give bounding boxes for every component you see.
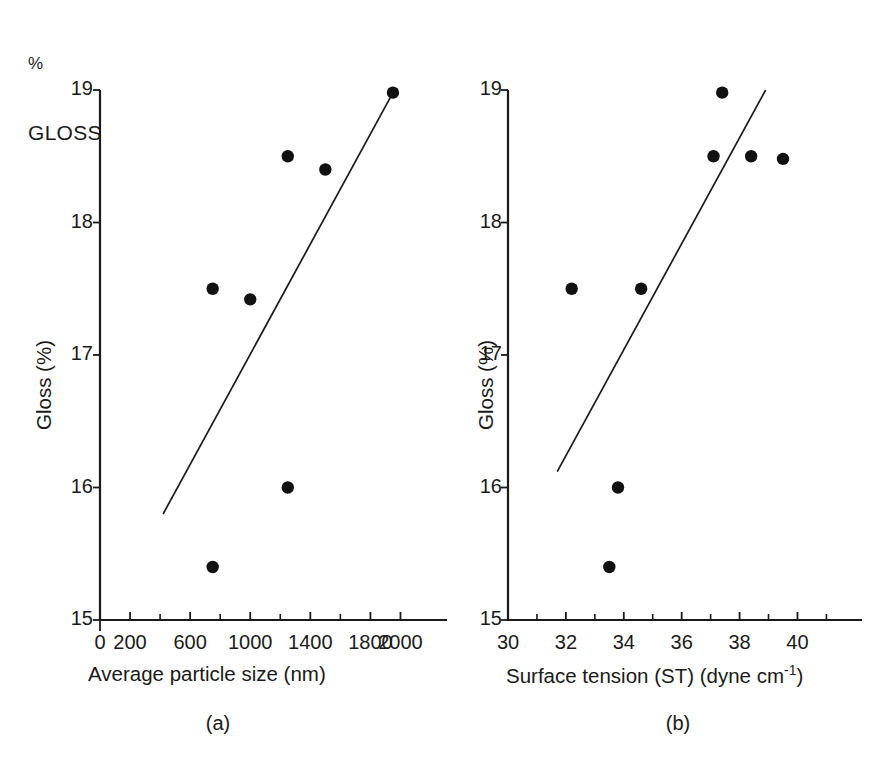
x-tick-label: 1400 [280, 631, 340, 654]
panel-a-caption: (a) [178, 712, 258, 735]
data-point [716, 86, 728, 98]
y-tick-label: 17 [458, 342, 502, 365]
panel-b-plot [442, 0, 892, 700]
x-tick-label: 1000 [220, 631, 280, 654]
y-tick-label: 15 [458, 607, 502, 630]
y-tick-label: 16 [458, 475, 502, 498]
y-tick-label: 16 [49, 475, 93, 498]
data-point [707, 150, 719, 162]
panel-b-x-axis-title-tail: ) [796, 664, 803, 687]
data-point [206, 561, 218, 573]
panel-b-x-axis-exponent: -1 [784, 662, 796, 678]
data-point [612, 481, 624, 493]
y-tick-label: 18 [458, 210, 502, 233]
x-tick-label: 32 [536, 631, 596, 654]
data-point [745, 150, 757, 162]
x-tick-label: 600 [160, 631, 220, 654]
x-tick-label: 2000 [370, 631, 430, 654]
x-tick-label: 36 [652, 631, 712, 654]
panel-b-caption: (b) [638, 712, 718, 735]
x-tick-label: 40 [767, 631, 827, 654]
data-point [206, 283, 218, 295]
panel-b: Gloss (%) Surface tension (ST) (dyne cm-… [442, 0, 892, 763]
y-tick-label: 19 [49, 77, 93, 100]
x-tick-label: 200 [100, 631, 160, 654]
panel-a: Gloss (%) Average particle size (nm) (a)… [0, 0, 450, 763]
y-tick-label: 18 [49, 210, 93, 233]
y-tick-label: 15 [49, 607, 93, 630]
panel-b-x-axis-title-main: Surface tension (ST) (dyne cm [506, 664, 784, 687]
x-tick-label: 34 [594, 631, 654, 654]
y-tick-label: 19 [458, 77, 502, 100]
data-point [635, 283, 647, 295]
data-point [565, 283, 577, 295]
data-point [282, 481, 294, 493]
panel-b-x-axis-title: Surface tension (ST) (dyne cm-1) [506, 662, 803, 688]
data-point [603, 561, 615, 573]
x-tick-label: 30 [478, 631, 538, 654]
x-tick-label: 38 [710, 631, 770, 654]
data-point [387, 86, 399, 98]
figure-container: % GLOSS Gloss (%) Average particle size … [0, 0, 892, 763]
data-point [244, 293, 256, 305]
panel-a-x-axis-title: Average particle size (nm) [88, 662, 326, 686]
data-point [777, 153, 789, 165]
data-point [282, 150, 294, 162]
y-tick-label: 17 [49, 342, 93, 365]
data-point [319, 163, 331, 175]
